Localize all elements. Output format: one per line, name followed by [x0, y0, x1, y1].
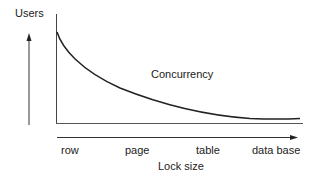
curve-label: Concurrency — [151, 68, 213, 80]
x-direction-arrow — [57, 135, 298, 140]
x-axis-label: Lock size — [158, 160, 204, 172]
x-tick-row: row — [61, 144, 79, 156]
x-tick-database: data base — [252, 144, 300, 156]
x-tick-page: page — [125, 144, 149, 156]
y-direction-arrow — [27, 33, 32, 125]
y-axis-label: Users — [15, 7, 44, 19]
x-tick-table: table — [196, 144, 220, 156]
